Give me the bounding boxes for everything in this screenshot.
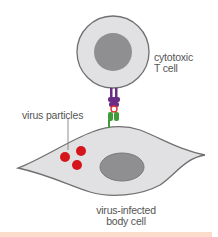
t-cell-nucleus: [94, 33, 132, 71]
body-cell-label-line2: body cell: [92, 216, 160, 227]
t-cell-label: cytotoxic T cell: [154, 52, 193, 74]
mhc-molecule: [108, 112, 119, 128]
virus-particle: [60, 152, 70, 162]
body-cell-label: virus-infected body cell: [92, 205, 160, 227]
virus-particles-label: virus particles: [22, 110, 83, 121]
t-cell-label-line2: T cell: [154, 63, 193, 74]
virus-particle: [76, 146, 86, 156]
t-cell-receptor: [108, 88, 120, 107]
virus-particle: [72, 160, 82, 170]
antigen: [111, 106, 117, 112]
bottom-band: [0, 232, 212, 237]
body-cell-nucleus: [100, 153, 144, 181]
